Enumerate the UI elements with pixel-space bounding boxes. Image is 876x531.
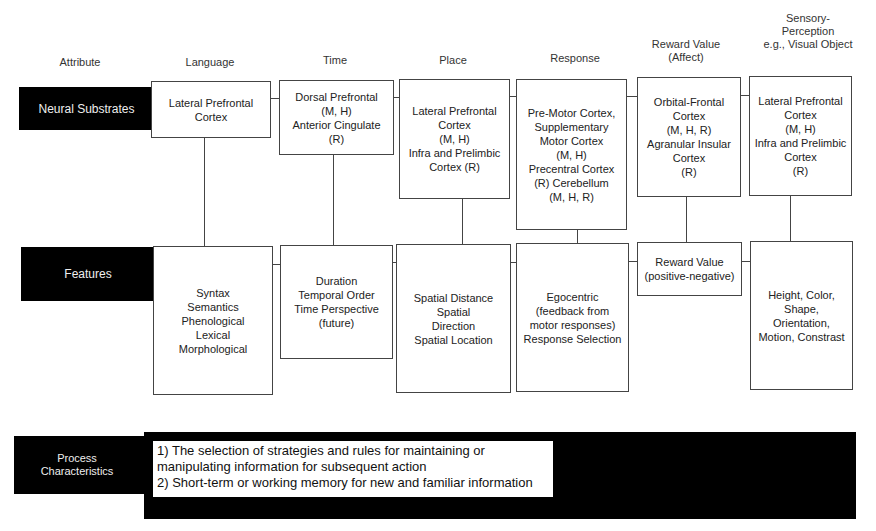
neural-substrate-sensory-perception: Lateral Prefrontal Cortex (M, H) Infra a… (749, 76, 852, 196)
row-label-process-characteristics: Process Characteristics (14, 440, 140, 490)
attribute-header: Attribute (40, 56, 120, 69)
connector (686, 196, 687, 242)
column-header-place: Place (403, 54, 503, 67)
feature-language: Syntax Semantics Phenological Lexical Mo… (153, 246, 273, 395)
column-header-sensory-perception: Sensory- Perception e.g., Visual Object (748, 12, 868, 51)
feature-response: Egocentric (feedback from motor response… (516, 243, 629, 392)
row-label-features: Features (21, 247, 155, 301)
process-line-3: 2) Short-term or working memory for new … (157, 475, 549, 491)
neural-substrate-place: Lateral Prefrontal Cortex (M, H) Infra a… (399, 79, 510, 199)
column-header-language: Language (160, 56, 260, 69)
feature-place: Spatial Distance Spatial Direction Spati… (396, 244, 511, 393)
neural-substrate-language: Lateral Prefrontal Cortex (151, 81, 271, 138)
connector (204, 137, 205, 247)
column-header-response: Response (525, 52, 625, 65)
neural-substrate-time: Dorsal Prefrontal (M, H) Anterior Cingul… (279, 80, 394, 155)
column-header-time: Time (285, 54, 385, 67)
feature-reward-value: Reward Value (positive-negative) (637, 242, 742, 296)
feature-time: Duration Temporal Order Time Perspective… (280, 245, 393, 359)
process-line-2: manipulating information for subsequent … (157, 459, 549, 475)
connector (790, 195, 791, 242)
column-header-reward-value: Reward Value (Affect) (636, 38, 736, 64)
process-characteristics-text: 1) The selection of strategies and rules… (153, 441, 553, 497)
neural-substrate-reward-value: Orbital-Frontal Cortex (M, H, R) Agranul… (637, 77, 741, 197)
process-line-1: 1) The selection of strategies and rules… (157, 443, 549, 459)
connector (462, 198, 463, 244)
neural-substrate-response: Pre-Motor Cortex, Supplementary Motor Co… (516, 79, 627, 230)
connector (333, 155, 334, 245)
row-label-neural-substrates: Neural Substrates (19, 87, 154, 130)
feature-sensory-perception: Height, Color, Shape, Orientation, Motio… (750, 241, 853, 390)
connector (577, 229, 578, 243)
